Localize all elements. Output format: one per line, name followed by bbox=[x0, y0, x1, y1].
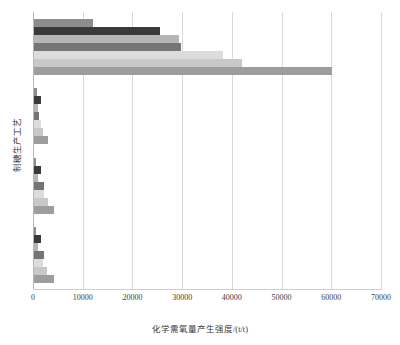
x-tick-label: 10000 bbox=[73, 293, 93, 302]
bar bbox=[34, 227, 36, 235]
bar-row bbox=[34, 251, 381, 259]
bar-row bbox=[34, 120, 381, 128]
bar-row bbox=[34, 35, 381, 43]
bar-group bbox=[34, 19, 381, 75]
x-axis-label-text: 化学需氧量产生强度/(t/t) bbox=[152, 324, 248, 334]
bar-row bbox=[34, 174, 381, 182]
bar bbox=[34, 88, 37, 96]
bar-row bbox=[34, 88, 381, 96]
y-axis-label-text: 制糖生产工艺 bbox=[10, 118, 22, 172]
bar bbox=[34, 35, 179, 43]
bar-row bbox=[34, 19, 381, 27]
bar bbox=[34, 267, 47, 275]
x-tick-label: 20000 bbox=[122, 293, 142, 302]
bar bbox=[34, 206, 54, 214]
bar-row bbox=[34, 190, 381, 198]
bar bbox=[34, 158, 36, 166]
bar bbox=[34, 166, 41, 174]
bar bbox=[34, 51, 223, 59]
bar-row bbox=[34, 227, 381, 235]
bar-row bbox=[34, 27, 381, 35]
bar-group bbox=[34, 158, 381, 214]
bar bbox=[34, 104, 38, 112]
bar-row bbox=[34, 267, 381, 275]
bar bbox=[34, 19, 93, 27]
bar bbox=[34, 96, 41, 104]
bar-row bbox=[34, 158, 381, 166]
bar bbox=[34, 198, 48, 206]
bar-row bbox=[34, 166, 381, 174]
bar bbox=[34, 235, 41, 243]
bar-row bbox=[34, 59, 381, 67]
x-axis-label: 化学需氧量产生强度/(t/t) bbox=[0, 322, 400, 334]
bar bbox=[34, 59, 242, 67]
bar bbox=[34, 112, 39, 120]
bar-row bbox=[34, 235, 381, 243]
bar bbox=[34, 67, 332, 75]
bar bbox=[34, 27, 160, 35]
bar bbox=[34, 275, 54, 283]
bar bbox=[34, 43, 181, 51]
bar bbox=[34, 136, 48, 144]
bar bbox=[34, 251, 44, 259]
x-tick-label: 50000 bbox=[272, 293, 292, 302]
bar bbox=[34, 174, 38, 182]
x-tick-label: 0 bbox=[31, 293, 35, 302]
bar-row bbox=[34, 136, 381, 144]
bar-group bbox=[34, 227, 381, 283]
bar-row bbox=[34, 275, 381, 283]
x-tick-label: 60000 bbox=[321, 293, 341, 302]
bar-row bbox=[34, 112, 381, 120]
bar-row bbox=[34, 243, 381, 251]
gridline-70000 bbox=[381, 12, 382, 290]
bar bbox=[34, 190, 44, 198]
x-tick-label: 70000 bbox=[371, 293, 391, 302]
bar-row bbox=[34, 43, 381, 51]
bar-group bbox=[34, 88, 381, 144]
x-axis-line bbox=[33, 289, 381, 290]
bar-row bbox=[34, 51, 381, 59]
bar-row bbox=[34, 206, 381, 214]
bar-row bbox=[34, 182, 381, 190]
bar-row bbox=[34, 198, 381, 206]
bar bbox=[34, 128, 43, 136]
x-tick-label: 40000 bbox=[222, 293, 242, 302]
x-tick-label: 30000 bbox=[172, 293, 192, 302]
bar-row bbox=[34, 67, 381, 75]
bar bbox=[34, 243, 38, 251]
bar-row bbox=[34, 128, 381, 136]
bar-row bbox=[34, 104, 381, 112]
bar-row bbox=[34, 259, 381, 267]
plot-area bbox=[33, 12, 381, 290]
bar bbox=[34, 182, 44, 190]
y-axis-label: 制糖生产工艺 bbox=[8, 0, 24, 290]
bar-row bbox=[34, 96, 381, 104]
bar bbox=[34, 120, 41, 128]
bar bbox=[34, 259, 43, 267]
y-axis-line bbox=[33, 12, 34, 290]
chart-figure: 制糖生产工艺 010000200003000040000500006000070… bbox=[0, 0, 400, 345]
